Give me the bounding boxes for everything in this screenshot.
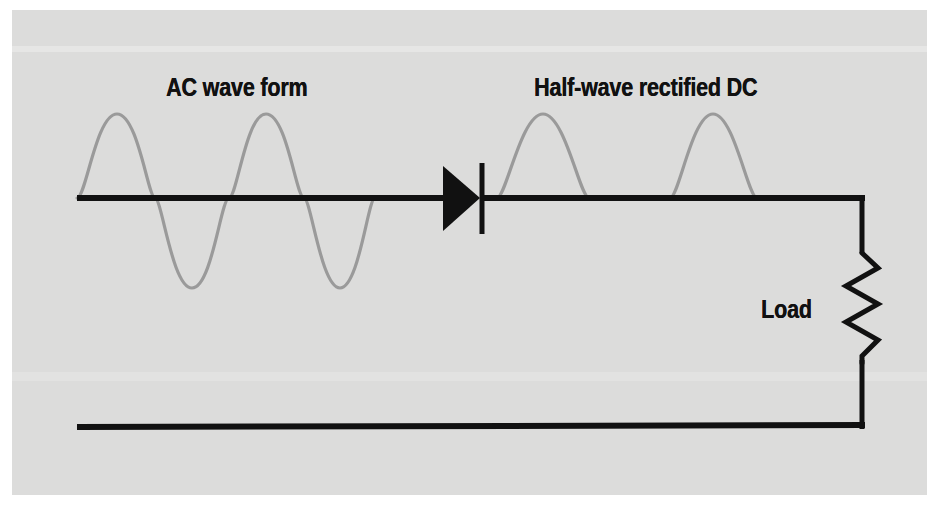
- load-resistor-zigzag-icon: [846, 253, 878, 363]
- ac-waveform-label: AC wave form: [166, 73, 307, 102]
- load-label: Load: [761, 295, 812, 324]
- diagram-canvas: AC wave form Half-wave rectified DC Load: [0, 0, 941, 510]
- rectified-waveform-label: Half-wave rectified DC: [534, 73, 757, 102]
- circuit-schematic: [0, 0, 941, 510]
- diode-triangle-icon: [443, 166, 480, 231]
- rectified-pulse-first: [497, 114, 589, 198]
- wire-bottom-rail: [77, 425, 865, 427]
- rectified-pulse-second: [670, 114, 757, 198]
